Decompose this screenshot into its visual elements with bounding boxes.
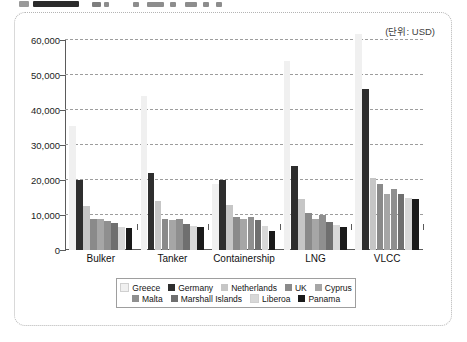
bar bbox=[176, 219, 183, 251]
chart-legend: GreeceGermanyNetherlandsUKCyprus MaltaMa… bbox=[116, 278, 356, 308]
bar bbox=[284, 61, 291, 250]
bar bbox=[391, 189, 398, 250]
legend-item[interactable]: Malta bbox=[132, 294, 163, 304]
legend-label: Panama bbox=[308, 294, 340, 304]
bar bbox=[269, 231, 276, 250]
bar-group bbox=[208, 40, 280, 250]
legend-item[interactable]: Germany bbox=[168, 283, 213, 293]
x-tick-mark bbox=[65, 224, 66, 230]
bar bbox=[126, 228, 133, 250]
bar bbox=[319, 215, 326, 250]
bar bbox=[298, 199, 305, 250]
legend-label: Netherlands bbox=[231, 283, 277, 293]
title-fragment-glyph bbox=[216, 2, 222, 7]
bar bbox=[370, 178, 377, 250]
bar bbox=[90, 219, 97, 251]
legend-label: Marshall Islands bbox=[181, 294, 242, 304]
bar bbox=[255, 220, 262, 250]
bar bbox=[240, 219, 247, 251]
bar bbox=[377, 184, 384, 251]
bar bbox=[291, 166, 298, 250]
title-fragment-glyph bbox=[104, 2, 109, 7]
bar bbox=[183, 224, 190, 250]
x-tick-mark bbox=[351, 224, 352, 230]
legend-item[interactable]: Greece bbox=[120, 283, 160, 293]
cropped-title-strip bbox=[0, 0, 467, 9]
x-tick-label: LNG bbox=[305, 253, 326, 264]
bar bbox=[212, 184, 219, 250]
title-fragment-glyph bbox=[33, 1, 79, 7]
bar-group bbox=[65, 40, 137, 250]
legend-swatch bbox=[298, 295, 305, 302]
bar bbox=[248, 217, 255, 250]
legend-label: Germany bbox=[178, 283, 213, 293]
legend-swatch bbox=[221, 284, 228, 291]
legend-item[interactable]: Liberoa bbox=[250, 294, 290, 304]
bar bbox=[326, 222, 333, 250]
x-tick-mark bbox=[280, 224, 281, 230]
legend-swatch bbox=[171, 295, 178, 302]
bar bbox=[155, 201, 162, 250]
bar bbox=[305, 213, 312, 250]
legend-swatch bbox=[132, 295, 139, 302]
legend-row-2: MaltaMarshall IslandsLiberoaPanama bbox=[123, 293, 349, 304]
title-fragment-glyph bbox=[19, 1, 29, 7]
bar bbox=[141, 96, 148, 250]
legend-item[interactable]: Cyprus bbox=[315, 283, 352, 293]
title-fragment-glyph bbox=[170, 2, 176, 7]
bar-group bbox=[280, 40, 352, 250]
legend-swatch bbox=[285, 284, 292, 291]
y-tick-label: 30,000 bbox=[16, 140, 60, 151]
bar bbox=[111, 223, 118, 250]
bar bbox=[362, 89, 369, 250]
x-tick-label: Tanker bbox=[157, 253, 187, 264]
title-fragment-glyph bbox=[203, 2, 209, 7]
legend-swatch bbox=[120, 283, 129, 292]
x-tick-mark bbox=[208, 224, 209, 230]
x-tick-mark bbox=[137, 224, 138, 230]
y-tick-label: 0 bbox=[16, 245, 60, 256]
legend-label: Malta bbox=[142, 294, 163, 304]
bar bbox=[233, 217, 240, 250]
bar bbox=[312, 219, 319, 251]
y-tick-label: 50,000 bbox=[16, 70, 60, 81]
bar bbox=[398, 194, 405, 250]
bar bbox=[162, 219, 169, 251]
bar bbox=[190, 226, 197, 250]
bar bbox=[333, 225, 340, 250]
bar bbox=[384, 194, 391, 250]
bar-group bbox=[137, 40, 209, 250]
legend-row-1: GreeceGermanyNetherlandsUKCyprus bbox=[123, 282, 349, 293]
legend-label: Greece bbox=[132, 283, 160, 293]
bar bbox=[69, 126, 76, 250]
legend-label: Cyprus bbox=[325, 283, 352, 293]
y-tick-label: 60,000 bbox=[16, 35, 60, 46]
legend-item[interactable]: Netherlands bbox=[221, 283, 277, 293]
bar bbox=[197, 227, 204, 250]
legend-item[interactable]: Marshall Islands bbox=[171, 294, 242, 304]
legend-swatch bbox=[168, 284, 175, 291]
bar bbox=[97, 219, 104, 250]
bar bbox=[226, 205, 233, 251]
bar bbox=[83, 206, 90, 250]
legend-item[interactable]: UK bbox=[285, 283, 307, 293]
y-tick-label: 10,000 bbox=[16, 210, 60, 221]
y-tick-label: 20,000 bbox=[16, 175, 60, 186]
title-fragment-glyph bbox=[185, 2, 197, 7]
y-axis-labels: 010,00020,00030,00040,00050,00060,000 bbox=[15, 40, 60, 250]
legend-swatch bbox=[250, 294, 259, 303]
legend-label: Liberoa bbox=[262, 294, 290, 304]
y-tick-label: 40,000 bbox=[16, 105, 60, 116]
title-fragment-glyph bbox=[92, 2, 101, 7]
bar-group bbox=[351, 40, 423, 250]
plot-area bbox=[65, 40, 423, 250]
legend-item[interactable]: Panama bbox=[298, 294, 340, 304]
x-tick-mark bbox=[423, 224, 424, 230]
x-tick-label: Containership bbox=[213, 253, 275, 264]
bar bbox=[76, 180, 83, 250]
title-fragment-glyph bbox=[147, 2, 164, 7]
legend-swatch bbox=[315, 284, 322, 291]
unit-note: (단위: USD) bbox=[385, 24, 435, 38]
x-tick-label: Bulker bbox=[87, 253, 115, 264]
bar bbox=[118, 227, 125, 250]
